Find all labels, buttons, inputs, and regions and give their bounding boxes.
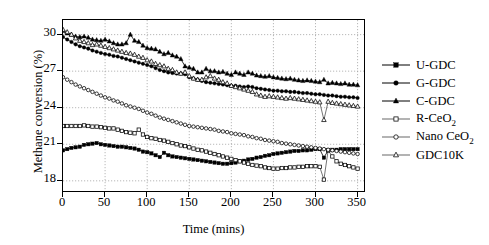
data-point-open-circle (86, 88, 90, 92)
x-tick-label: 250 (252, 196, 292, 209)
data-point-filled-circle (326, 94, 330, 98)
data-point-open-circle (251, 135, 255, 139)
data-point-filled-circle (280, 90, 284, 94)
data-point-filled-circle (293, 90, 297, 94)
data-point-filled-circle (204, 80, 208, 84)
data-point-open-square (255, 164, 258, 167)
y-tick-label: 27 (26, 62, 56, 75)
data-point-filled-square (322, 156, 325, 159)
data-point-filled-circle (318, 93, 322, 97)
data-point-open-square (213, 152, 216, 155)
data-point-open-square (204, 150, 207, 153)
legend-item-nano-ceo[interactable]: Nano CeO2 (381, 128, 474, 146)
data-point-filled-square (225, 162, 228, 165)
data-point-filled-square (268, 154, 271, 157)
data-point-open-circle (91, 90, 95, 94)
data-point-open-circle (318, 147, 322, 151)
data-point-filled-circle (331, 94, 335, 98)
legend-item-u-gdc[interactable]: U-GDC (381, 56, 474, 74)
data-point-filled-circle (297, 91, 301, 95)
data-point-open-circle (108, 97, 112, 101)
data-point-open-circle (301, 144, 305, 148)
data-point-open-square (99, 126, 102, 129)
data-point-filled-circle (129, 58, 133, 62)
data-point-open-circle (238, 133, 242, 137)
data-point-filled-circle (335, 94, 339, 98)
data-point-open-circle (234, 132, 238, 136)
data-point-filled-triangle (82, 34, 87, 38)
legend-item-r-ceo[interactable]: R-CeO2 (381, 110, 474, 128)
data-point-open-square (70, 124, 73, 127)
legend-marker-filled-square-icon (381, 58, 411, 72)
data-point-filled-square (183, 157, 186, 160)
data-point-filled-square (297, 149, 300, 152)
data-point-open-square (179, 144, 182, 147)
data-point-open-circle (129, 105, 133, 109)
legend-label-subscript: 2 (469, 135, 474, 145)
x-tick-label: 200 (210, 196, 250, 209)
data-point-open-square (108, 127, 111, 130)
data-point-filled-triangle (221, 69, 226, 73)
data-point-open-square (343, 163, 346, 166)
data-point-open-circle (63, 76, 65, 80)
data-point-filled-triangle (128, 32, 133, 36)
data-point-open-circle (120, 102, 124, 106)
data-point-filled-circle (137, 61, 141, 65)
data-point-filled-circle (154, 66, 158, 70)
data-point-open-circle (95, 92, 99, 96)
data-point-open-square (141, 133, 144, 136)
data-point-open-circle (259, 137, 263, 141)
data-point-open-square (246, 162, 249, 165)
data-point-filled-square (103, 143, 106, 146)
data-point-filled-circle (255, 86, 259, 90)
data-point-open-square (78, 124, 81, 127)
data-point-open-square (225, 156, 228, 159)
data-point-filled-square (158, 155, 161, 158)
data-point-open-circle (150, 112, 154, 116)
data-point-filled-square (200, 159, 203, 162)
data-point-open-circle (314, 146, 318, 150)
data-point-open-circle (133, 106, 137, 110)
data-point-filled-circle (259, 87, 263, 91)
data-point-filled-circle (99, 51, 103, 55)
data-point-open-circle (246, 135, 250, 139)
data-point-filled-circle (347, 96, 351, 100)
data-point-filled-square (276, 152, 279, 155)
legend-item-gdc10k[interactable]: GDC10K (381, 146, 474, 164)
data-point-open-square (339, 162, 342, 165)
data-point-open-square (137, 128, 140, 131)
series-line (63, 37, 358, 98)
x-tick-mark (272, 192, 273, 197)
data-point-filled-circle (162, 69, 166, 73)
x-tick-label: 350 (337, 196, 377, 209)
data-point-filled-circle (276, 89, 280, 93)
data-point-open-circle (331, 149, 335, 153)
data-point-filled-square (74, 146, 77, 149)
data-point-filled-triangle (343, 81, 348, 85)
series-line (63, 77, 358, 154)
x-tick-label: 100 (126, 196, 166, 209)
y-tick-label: 30 (26, 26, 56, 39)
legend-item-g-gdc[interactable]: G-GDC (381, 74, 474, 92)
data-point-open-triangle (94, 42, 99, 46)
legend-item-c-gdc[interactable]: C-GDC (381, 92, 474, 110)
data-point-open-square (297, 165, 300, 168)
data-point-filled-square (175, 155, 178, 158)
data-point-open-circle (99, 94, 103, 98)
data-point-open-circle (335, 149, 339, 153)
data-point-filled-circle (74, 43, 78, 47)
data-point-open-square (192, 147, 195, 150)
data-point-open-square (318, 165, 321, 168)
data-point-filled-square (263, 154, 266, 157)
data-point-open-circle (305, 145, 309, 149)
data-point-open-square (103, 126, 106, 129)
x-tick-mark (230, 192, 231, 197)
data-point-filled-square (120, 145, 123, 148)
data-point-open-square (171, 141, 174, 144)
data-point-filled-square (217, 161, 220, 164)
data-point-open-square (158, 138, 161, 141)
x-tick-mark (357, 192, 358, 197)
data-point-open-square (217, 154, 220, 157)
data-point-filled-square (91, 142, 94, 145)
data-point-filled-circle (322, 93, 326, 97)
